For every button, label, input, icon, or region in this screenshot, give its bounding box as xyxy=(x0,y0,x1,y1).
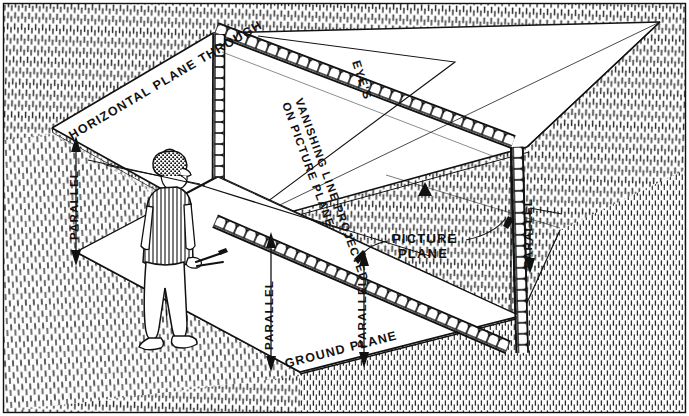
picture-plane-label-1: PICTURE xyxy=(392,231,457,246)
parallel-left-label: PARALLEL xyxy=(68,170,80,240)
picture-plane-label-2: PLANE xyxy=(398,246,448,261)
parallel-center-left-label: PARALLEL xyxy=(263,280,275,350)
perspective-diagram: PARALLEL PARALLEL PARALLEL PARALLEL HORI… xyxy=(0,0,689,416)
illustration-canvas: PARALLEL PARALLEL PARALLEL PARALLEL HORI… xyxy=(0,0,689,416)
parallel-right-label: PARALLEL xyxy=(522,198,534,268)
observer-shoe-right xyxy=(171,336,197,348)
